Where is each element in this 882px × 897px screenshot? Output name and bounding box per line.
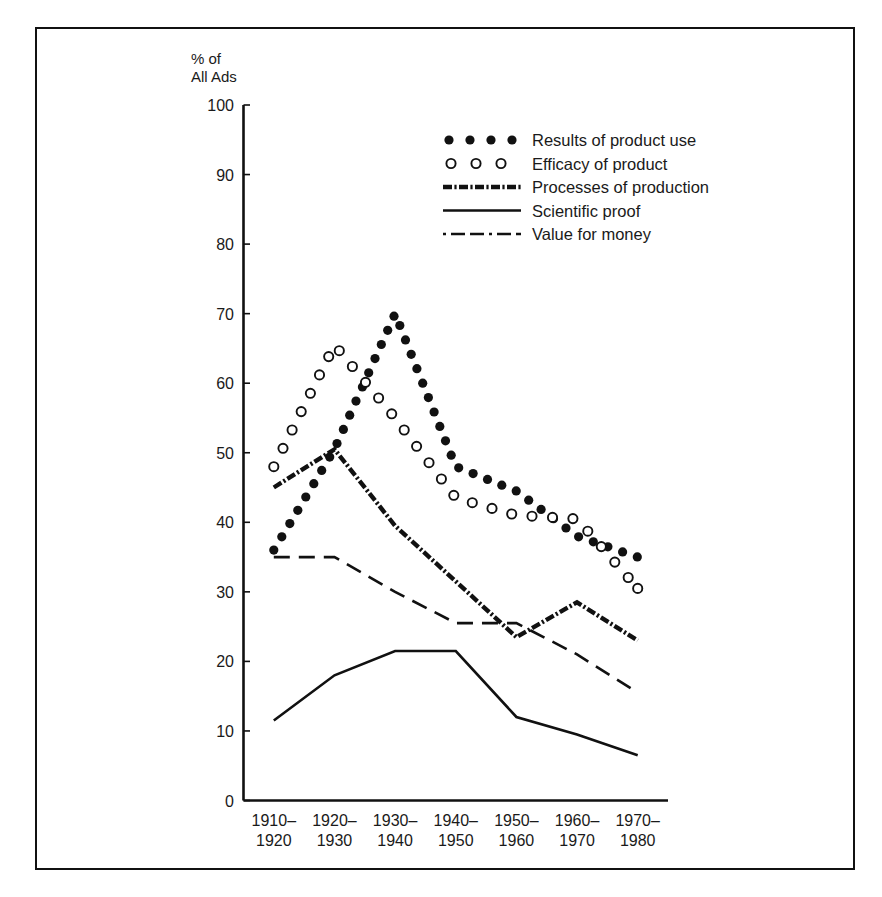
figure-border-frame <box>35 27 855 870</box>
figure-root: % of All Ads 0102030405060708090100 1910… <box>0 0 882 897</box>
